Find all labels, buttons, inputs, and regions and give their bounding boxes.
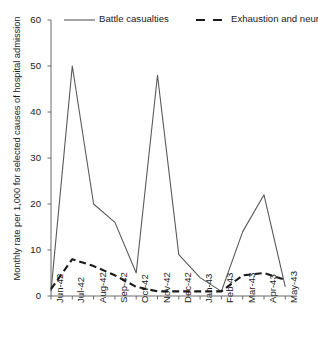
plot-area (0, 0, 318, 346)
chart-figure: Monthly rate per 1,000 for selected caus… (0, 0, 318, 346)
series-line (51, 259, 285, 291)
series-lines (51, 66, 285, 291)
series-line (51, 66, 285, 291)
tick-marks (48, 20, 286, 300)
